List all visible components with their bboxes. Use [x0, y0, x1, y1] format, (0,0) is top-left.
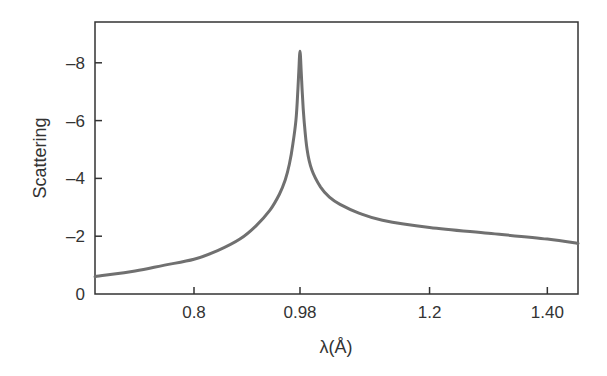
x-tick-label: 1.2	[418, 303, 442, 322]
y-tick-label: –8	[66, 54, 85, 73]
x-tick-label: 0.8	[182, 303, 206, 322]
y-tick-label: –4	[66, 169, 85, 188]
x-axis-title: λ(Å)	[320, 337, 353, 357]
y-tick-label: –6	[66, 112, 85, 131]
x-axis-ticks: 0.80.981.21.40	[182, 287, 564, 322]
plot-frame	[95, 22, 578, 294]
x-tick-label: 0.98	[283, 303, 316, 322]
y-tick-label: 0	[76, 285, 85, 304]
y-axis-ticks: 0–2–4–6–8	[66, 54, 102, 304]
x-tick-label: 1.40	[531, 303, 564, 322]
scattering-line-chart: 0–2–4–6–8 0.80.981.21.40 λ(Å) Scattering	[0, 0, 607, 376]
y-axis-title: Scattering	[30, 117, 50, 198]
scattering-curve	[95, 51, 578, 277]
y-tick-label: –2	[66, 227, 85, 246]
